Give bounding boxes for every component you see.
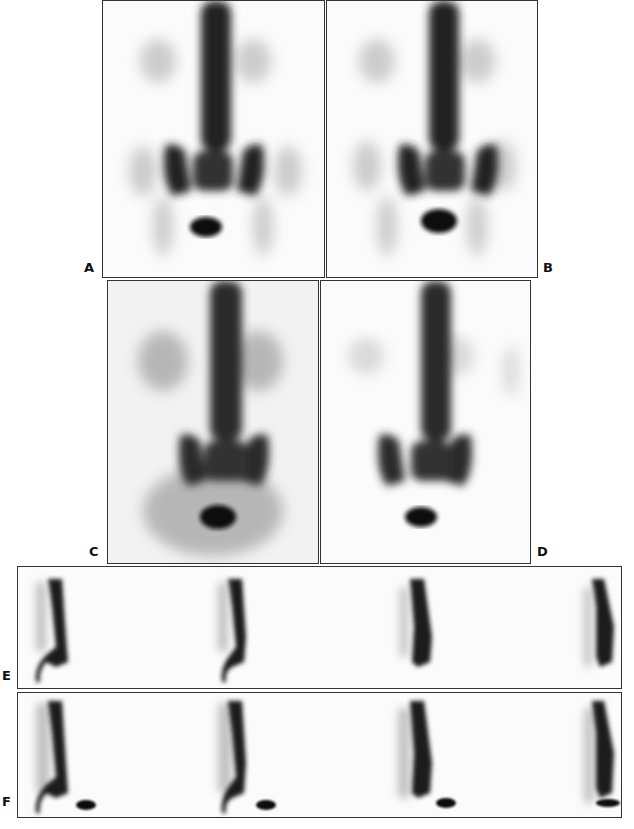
sagittal-slices-f bbox=[18, 693, 622, 818]
panel-label-c: C bbox=[89, 544, 99, 559]
scintigraphy-image-a bbox=[103, 1, 325, 278]
panel-label-b: B bbox=[543, 260, 553, 275]
panel-c bbox=[107, 280, 319, 564]
scintigraphy-image-d bbox=[321, 281, 531, 564]
panel-f bbox=[17, 692, 622, 818]
panel-label-e: E bbox=[2, 668, 11, 683]
panel-e bbox=[17, 566, 622, 689]
sagittal-slices-e bbox=[18, 567, 622, 689]
panel-label-d: D bbox=[537, 544, 548, 559]
panel-b bbox=[326, 0, 538, 278]
panel-label-f: F bbox=[2, 794, 11, 809]
panel-label-a: A bbox=[84, 260, 94, 275]
panel-d bbox=[320, 280, 531, 564]
scintigraphy-image-c bbox=[108, 281, 319, 564]
panel-a bbox=[102, 0, 325, 278]
scintigraphy-image-b bbox=[327, 1, 538, 278]
